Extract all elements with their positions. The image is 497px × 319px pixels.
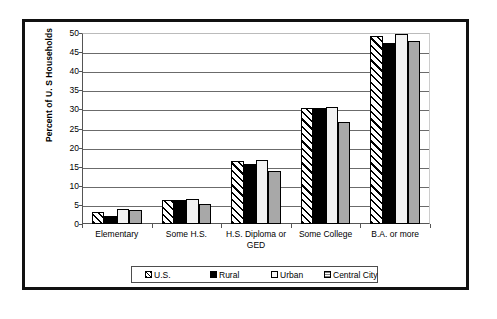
legend-item-central-city[interactable]: Central City [324, 270, 377, 280]
y-tick-label: 45 [59, 48, 79, 57]
legend-label: Urban [280, 270, 303, 280]
y-tick-label: 15 [59, 162, 79, 171]
x-tick-mark [152, 224, 153, 228]
x-tick-mark [360, 224, 361, 228]
y-tick-label: 30 [59, 105, 79, 114]
y-tick-label: 35 [59, 86, 79, 95]
x-axis-tick-labels: ElementarySome H.S.H.S. Diploma orGEDSom… [82, 229, 430, 259]
y-tick-label: 5 [59, 201, 79, 210]
legend-item-rural[interactable]: Rural [210, 270, 239, 280]
grid-line [83, 130, 429, 131]
y-tick-label: 20 [59, 143, 79, 152]
chart-figure-frame: Percent of U. S Households 0510152025303… [22, 19, 469, 290]
y-tick-label: 25 [59, 124, 79, 133]
legend-label: Rural [219, 270, 239, 280]
y-tick-label: 40 [59, 67, 79, 76]
legend-item-u-s[interactable]: U.S. [145, 270, 171, 280]
plot-area [82, 33, 430, 224]
x-tick-label: B.A. or more [352, 229, 438, 240]
x-tick-mark [82, 224, 83, 228]
legend-label: U.S. [154, 270, 171, 280]
bar-chart: Percent of U. S Households 0510152025303… [25, 22, 466, 287]
grid-line [83, 206, 429, 207]
grid-line [83, 168, 429, 169]
x-tick-mark [430, 224, 431, 228]
legend-label: Central City [333, 270, 377, 280]
grid-line [83, 91, 429, 92]
x-tick-mark [291, 224, 292, 228]
grid-line [83, 72, 429, 73]
legend-swatch-icon [324, 271, 331, 278]
legend-swatch-icon [210, 271, 217, 278]
y-tick-label: 0 [59, 220, 79, 229]
y-axis-tick-labels: 05101520253035404550 [57, 33, 79, 224]
grid-line [83, 149, 429, 150]
chart-legend: U.S.RuralUrbanCentral City [131, 266, 378, 283]
legend-item-urban[interactable]: Urban [271, 270, 303, 280]
x-tick-mark [221, 224, 222, 228]
legend-swatch-icon [145, 271, 152, 278]
grid-line [83, 187, 429, 188]
legend-swatch-icon [271, 271, 278, 278]
grid-line [83, 53, 429, 54]
y-tick-label: 10 [59, 182, 79, 191]
y-axis-title: Percent of U. S Households [44, 10, 54, 160]
grid-line [83, 110, 429, 111]
y-tick-label: 50 [59, 29, 79, 38]
